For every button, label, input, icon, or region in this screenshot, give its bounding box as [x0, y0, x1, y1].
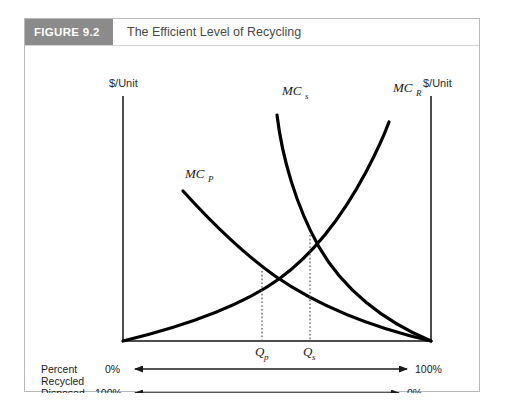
y-axis-right-label: $/Unit — [423, 77, 452, 89]
curve-mc-s — [277, 115, 431, 341]
svg-text:Percent: Percent — [41, 363, 77, 375]
svg-text:MC: MC — [281, 83, 302, 98]
curve-label-mc-r: MC R — [392, 80, 422, 98]
svg-text:MC: MC — [392, 80, 413, 95]
tick-label-qs: Q s — [303, 344, 316, 362]
tick-label-qp: Q p — [255, 344, 269, 362]
svg-text:P: P — [207, 174, 214, 184]
svg-text:Disposed: Disposed — [41, 387, 85, 393]
curve-label-mc-s: MC s — [281, 83, 309, 101]
scale-right-value-recycled: 100% — [415, 363, 442, 375]
curve-mc-p — [183, 191, 431, 341]
curve-mc-r — [123, 122, 389, 341]
recycling-cost-chart: $/Unit $/Unit MC P MC s MC R — [25, 45, 481, 393]
scale-row-percent-recycled: Percent Recycled 0% 100% — [41, 363, 442, 387]
svg-text:s: s — [305, 91, 309, 101]
scale-right-value-disposed: 0% — [407, 387, 422, 393]
scale-left-value-disposed: 100% — [95, 387, 122, 393]
y-axis-left-label: $/Unit — [109, 77, 138, 89]
scale-row-percent-disposed: Disposed 100% 0% — [41, 387, 422, 393]
plot-area: $/Unit $/Unit MC P MC s MC R — [25, 45, 479, 393]
svg-text:MC: MC — [184, 166, 205, 181]
svg-text:s: s — [312, 352, 316, 362]
scale-left-value-recycled: 0% — [105, 363, 120, 375]
svg-text:R: R — [415, 88, 422, 98]
figure-number-badge: FIGURE 9.2 — [25, 19, 113, 45]
svg-text:p: p — [263, 352, 269, 362]
svg-text:Recycled: Recycled — [41, 375, 84, 387]
figure-header: FIGURE 9.2 The Efficient Level of Recycl… — [25, 19, 479, 45]
curve-label-mc-p: MC P — [184, 166, 214, 184]
figure-frame: FIGURE 9.2 The Efficient Level of Recycl… — [24, 18, 480, 392]
figure-title: The Efficient Level of Recycling — [113, 19, 479, 45]
